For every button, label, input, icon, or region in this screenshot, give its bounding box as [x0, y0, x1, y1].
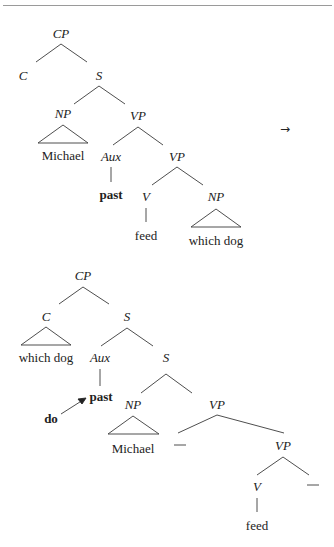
tree1-s-label: S [96, 68, 103, 83]
tree1-cp-label: CP [53, 26, 70, 41]
edge-vp2-v [257, 457, 283, 475]
tree2-v-label: V [253, 479, 263, 494]
edge-s2-np [141, 374, 166, 393]
tree-1: CP C S NP Michael VP Aux past VP V feed … [19, 26, 244, 248]
tree2-cp-label: CP [75, 268, 92, 283]
tree2-which-dog-word: which dog [19, 350, 74, 365]
tree2-aux-label: Aux [89, 350, 110, 365]
tree1-np2-label: NP [207, 189, 225, 204]
transform-arrow-icon: → [280, 122, 290, 136]
tree1-vp2-label: VP [169, 149, 185, 164]
edge-vp-vp2 [217, 415, 284, 433]
np2-triangle [191, 209, 241, 227]
tree1-c-label: C [19, 68, 28, 83]
tree1-feed-word: feed [135, 228, 158, 243]
edge-vp-aux [113, 127, 138, 145]
tree1-v-label: V [142, 189, 152, 204]
tree2-feed-word: feed [246, 518, 269, 533]
tree1-vp-label: VP [130, 108, 146, 123]
tree-2: CP C which dog S Aux past do S NP Michae… [19, 268, 319, 533]
tree1-michael-word: Michael [42, 148, 85, 163]
edge-vp2-trace [283, 457, 309, 475]
edge-vp2-v [152, 167, 177, 185]
syntax-tree-diagram: CP C S NP Michael VP Aux past VP V feed … [0, 0, 334, 547]
tree2-c-label: C [42, 309, 51, 324]
tree1-np-label: NP [54, 106, 72, 121]
edge-vp-trace [178, 415, 217, 433]
edge-vp2-np2 [177, 167, 203, 185]
tree1-aux-label: Aux [100, 149, 121, 164]
c-triangle [21, 327, 71, 345]
tree2-s-label: S [124, 309, 131, 324]
tree2-michael-word: Michael [112, 441, 155, 456]
edge-cp-s [61, 44, 87, 62]
do-insertion-arrowhead-icon [78, 398, 86, 404]
edge-s2-vp [166, 374, 192, 393]
tree2-do-word: do [44, 411, 58, 426]
edge-s-np [74, 86, 99, 104]
edge-cp-c [59, 287, 83, 304]
do-insertion-arrow-line [61, 400, 83, 414]
tree1-past-word: past [99, 187, 123, 202]
tree2-past-word: past [89, 389, 113, 404]
edge-vp-vp2 [138, 127, 163, 145]
tree2-np-label: NP [124, 397, 142, 412]
edge-s-vp [99, 86, 125, 104]
np-triangle [108, 416, 159, 434]
edge-cp-s [83, 287, 109, 304]
tree2-vp-label: VP [209, 397, 225, 412]
tree2-vp2-label: VP [275, 438, 291, 453]
edge-s-s2 [127, 328, 153, 346]
tree2-s2-label: S [163, 350, 170, 365]
edge-s-aux [101, 328, 127, 346]
tree1-which-dog-word: which dog [189, 233, 244, 248]
edge-cp-c [36, 44, 61, 62]
np-triangle [38, 125, 88, 143]
